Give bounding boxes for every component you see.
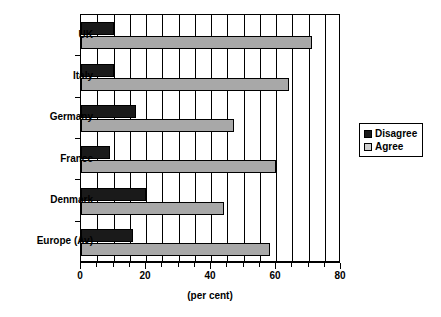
category-label: Germany (50, 112, 93, 122)
x-tick-major (275, 263, 276, 269)
bar-agree-italy (81, 78, 289, 91)
legend-label: Agree (375, 142, 403, 152)
gridline (195, 15, 196, 261)
bar-chart: UKItalyGermanyFranceDenmarkEurope (Av) 0… (0, 0, 441, 317)
gridline (179, 15, 180, 261)
category-tick (75, 138, 80, 139)
bar-agree-denmark (81, 202, 224, 215)
category-tick (75, 55, 80, 56)
x-tick-minor (324, 263, 325, 267)
x-tick-minor (161, 263, 162, 267)
gridline (292, 15, 293, 261)
gridline (260, 15, 261, 261)
bar-agree-germany (81, 119, 234, 132)
gridline (276, 15, 277, 261)
gridline (309, 15, 310, 261)
gridline (114, 15, 115, 261)
gridline (244, 15, 245, 261)
category-label: France (60, 154, 93, 164)
category-label: Denmark (50, 195, 93, 205)
gridline (97, 15, 98, 261)
plot-area (80, 14, 340, 262)
x-tick-label: 60 (255, 270, 295, 281)
legend: DisagreeAgree (359, 123, 423, 157)
gridline (211, 15, 212, 261)
x-tick-minor (259, 263, 260, 267)
x-tick-major (145, 263, 146, 269)
x-tick-label: 80 (320, 270, 360, 281)
x-tick-major (210, 263, 211, 269)
category-label: UK (79, 30, 93, 40)
x-tick-label: 20 (125, 270, 165, 281)
x-axis-title: (per cent) (80, 290, 340, 301)
bar-agree-uk (81, 36, 312, 49)
gridline (130, 15, 131, 261)
legend-swatch-agree-icon (364, 143, 372, 151)
category-label: Europe (Av) (37, 236, 93, 246)
x-tick-minor (178, 263, 179, 267)
x-tick-minor (96, 263, 97, 267)
legend-item: Agree (364, 140, 417, 153)
category-label: Italy (73, 71, 93, 81)
x-tick-minor (308, 263, 309, 267)
gridline (325, 15, 326, 261)
x-tick-major (340, 263, 341, 269)
x-tick-minor (291, 263, 292, 267)
x-tick-label: 0 (60, 270, 100, 281)
legend-item: Disagree (364, 127, 417, 140)
x-tick-minor (194, 263, 195, 267)
category-tick (75, 97, 80, 98)
legend-label: Disagree (375, 129, 417, 139)
gridline (146, 15, 147, 261)
category-tick (75, 179, 80, 180)
bar-agree-europe-av (81, 243, 270, 256)
x-tick-major (80, 263, 81, 269)
x-tick-label: 40 (190, 270, 230, 281)
bar-agree-france (81, 160, 276, 173)
x-tick-minor (113, 263, 114, 267)
category-tick (75, 221, 80, 222)
legend-swatch-disagree-icon (364, 130, 372, 138)
gridline (227, 15, 228, 261)
x-tick-minor (129, 263, 130, 267)
gridline (162, 15, 163, 261)
x-tick-minor (243, 263, 244, 267)
x-tick-minor (226, 263, 227, 267)
